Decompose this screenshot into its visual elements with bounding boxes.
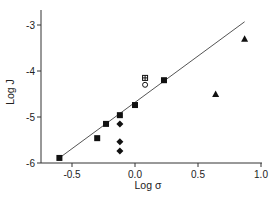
data-point-triangle: [212, 91, 219, 98]
x-tick-label: -0.5: [63, 169, 81, 180]
plot-area: [56, 22, 248, 161]
x-tick-label: 1.0: [254, 169, 268, 180]
data-point-square: [117, 112, 123, 118]
regression-line: [59, 22, 244, 158]
y-tick-label: -3: [26, 20, 35, 31]
data-point-diamond: [116, 148, 123, 155]
data-point-triangle: [241, 35, 248, 42]
data-point-square: [56, 155, 62, 161]
y-tick-label: -6: [26, 158, 35, 169]
data-point-diamond: [116, 138, 123, 145]
x-axis-label: Log σ: [135, 179, 162, 191]
data-point-square: [94, 135, 100, 141]
scatter-chart: -0.50.00.51.0 -6-5-4-3 Log σ Log J: [0, 0, 278, 201]
y-ticks: -6-5-4-3: [26, 20, 41, 169]
y-tick-label: -4: [26, 66, 35, 77]
data-point-square: [161, 77, 167, 83]
data-point-crossed-square: [143, 75, 148, 80]
x-ticks: -0.50.00.51.0: [63, 163, 268, 180]
y-tick-label: -5: [26, 112, 35, 123]
data-point-square: [132, 102, 138, 108]
data-point-square: [103, 121, 109, 127]
x-tick-label: 0.5: [191, 169, 205, 180]
data-point-diamond: [116, 120, 123, 127]
y-axis-label: Log J: [4, 79, 16, 105]
data-point-circle: [143, 82, 148, 87]
